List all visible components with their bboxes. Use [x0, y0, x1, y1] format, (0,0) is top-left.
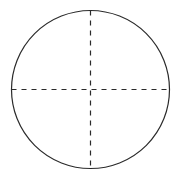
geometry-diagram	[0, 0, 180, 177]
figure-canvas	[0, 0, 180, 177]
background-rect	[0, 0, 180, 177]
